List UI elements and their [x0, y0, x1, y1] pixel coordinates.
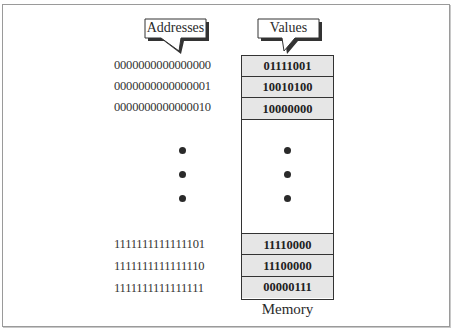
- address-label: 1111111111111111: [114, 281, 236, 296]
- address-label: 1111111111111101: [114, 237, 236, 252]
- ellipsis-dot-icon: [284, 171, 291, 178]
- ellipsis-dot-icon: [179, 171, 186, 178]
- address-label: 0000000000000010: [114, 100, 236, 115]
- ellipsis-dot-icon: [284, 147, 291, 154]
- memory-cell: 10010100: [242, 77, 333, 98]
- memory-cell: 00000111: [242, 277, 333, 298]
- memory-cell: 11100000: [242, 255, 333, 277]
- memory-cell: 01111001: [242, 56, 333, 77]
- address-label: 0000000000000000: [114, 58, 236, 73]
- ellipsis-dot-icon: [284, 195, 291, 202]
- memory-cell: 11110000: [242, 233, 333, 255]
- values-callout-label: Values: [258, 19, 319, 37]
- memory-caption: Memory: [241, 301, 334, 318]
- ellipsis-dot-icon: [179, 195, 186, 202]
- ellipsis-dot-icon: [179, 147, 186, 154]
- address-label: 1111111111111110: [114, 259, 236, 274]
- address-label: 0000000000000001: [114, 79, 236, 94]
- addresses-callout-label: Addresses: [145, 19, 206, 37]
- memory-cell: 10000000: [242, 98, 333, 120]
- memory-column: 01111001 10010100 10000000 11110000 1110…: [241, 55, 334, 300]
